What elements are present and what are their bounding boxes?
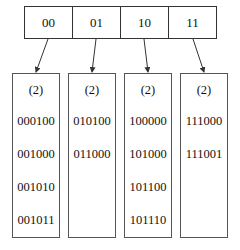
arrow-00 (36, 39, 48, 72)
arrow-10 (144, 39, 148, 72)
bucket-key: 001011 (13, 213, 59, 227)
bucket-2: (2) 010100 011000 (68, 73, 116, 238)
bucket-key: 101000 (125, 147, 171, 161)
directory-entry-10: 10 (121, 7, 169, 38)
bucket-key: 010100 (69, 114, 115, 128)
bucket-4: (2) 111000 111001 (180, 73, 228, 238)
bucket-key: 001010 (13, 180, 59, 194)
directory-entry-01: 01 (73, 7, 121, 38)
directory-entry-00: 00 (25, 7, 73, 38)
local-depth: (2) (125, 83, 171, 97)
bucket-key: 001000 (13, 147, 59, 161)
local-depth: (2) (181, 83, 227, 97)
directory-entry-11: 11 (169, 7, 216, 38)
bucket-1: (2) 000100 001000 001010 001011 (12, 73, 60, 238)
bucket-key: 101110 (125, 213, 171, 227)
bucket-key: 111000 (181, 114, 227, 128)
bucket-key: 100000 (125, 114, 171, 128)
arrow-01 (92, 39, 96, 72)
local-depth: (2) (13, 83, 59, 97)
bucket-3: (2) 100000 101000 101100 101110 (124, 73, 172, 238)
directory: 00 01 10 11 (24, 6, 217, 39)
bucket-key: 111001 (181, 147, 227, 161)
arrow-11 (193, 39, 204, 72)
bucket-key: 011000 (69, 147, 115, 161)
bucket-key: 101100 (125, 180, 171, 194)
bucket-key: 000100 (13, 114, 59, 128)
local-depth: (2) (69, 83, 115, 97)
